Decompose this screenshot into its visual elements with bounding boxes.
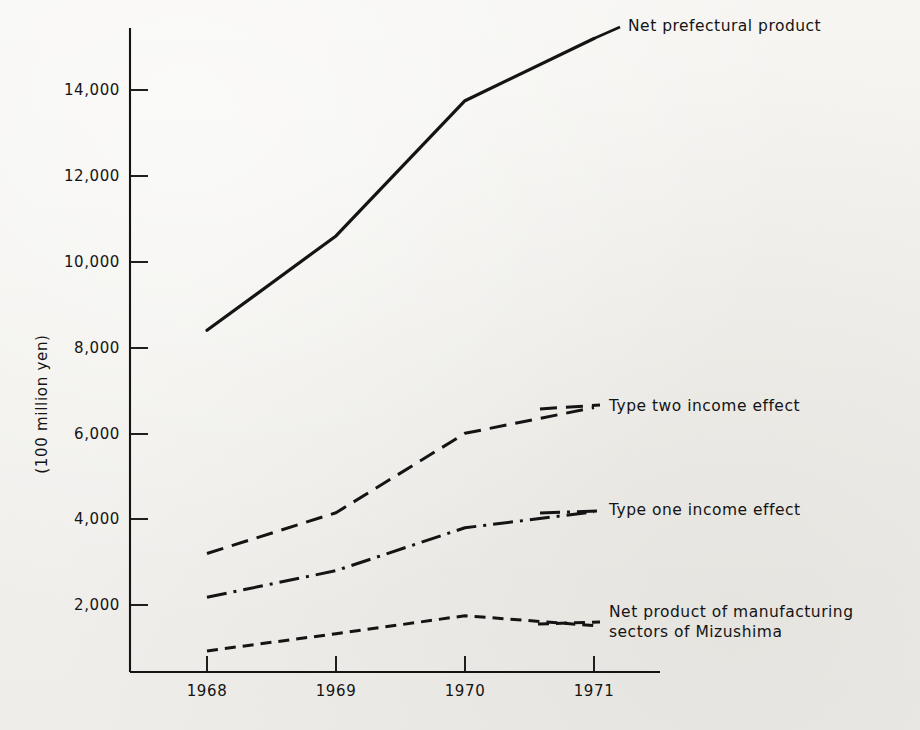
y-tick-label-14000: 14,000 — [36, 81, 120, 99]
x-tick-label-1970: 1970 — [425, 682, 505, 700]
y-axis-title: (100 million yen) — [33, 299, 51, 509]
series-line-net-product-manufacturing — [207, 616, 594, 651]
x-tick-label-1969: 1969 — [296, 682, 376, 700]
x-tick-label-1971: 1971 — [554, 682, 634, 700]
legend-sample-type-two — [540, 405, 600, 409]
chart-figure: 14,000 12,000 10,000 8,000 6,000 4,000 2… — [0, 0, 920, 730]
x-tick-label-1968: 1968 — [167, 682, 247, 700]
y-tick-label-4000: 4,000 — [36, 510, 120, 528]
series-line-type-two-income-effect — [207, 408, 594, 554]
series-label-type-one-income-effect: Type one income effect — [609, 500, 801, 520]
x-axis-ticks — [207, 656, 594, 672]
series-label-net-prefectural-product: Net prefectural product — [628, 16, 821, 36]
y-tick-label-12000: 12,000 — [36, 167, 120, 185]
y-axis-ticks — [130, 90, 148, 605]
series-line-net-prefectural-product — [207, 39, 594, 331]
y-tick-label-2000: 2,000 — [36, 596, 120, 614]
y-tick-label-10000: 10,000 — [36, 253, 120, 271]
legend-sample-type-one — [540, 511, 600, 513]
leader-line-net-prefectural-product — [594, 27, 620, 39]
series-label-net-product-manufacturing: Net product of manufacturing sectors of … — [609, 602, 854, 642]
series-line-type-one-income-effect — [207, 512, 594, 597]
series-label-type-two-income-effect: Type two income effect — [609, 396, 800, 416]
